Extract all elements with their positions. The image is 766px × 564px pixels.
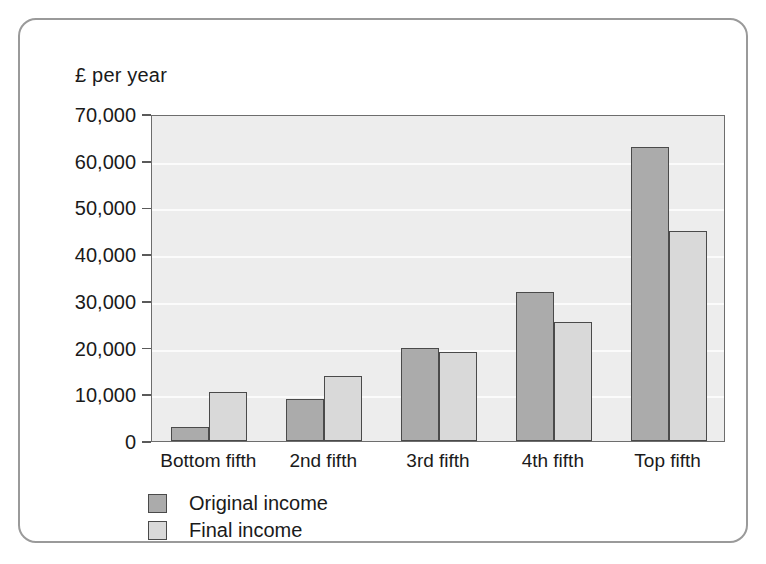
plot-area: [151, 115, 725, 442]
x-tick-label: 4th fifth: [522, 450, 584, 472]
bar: [554, 322, 592, 441]
bar: [171, 427, 209, 441]
y-tick-mark: [142, 114, 151, 116]
bar: [669, 231, 707, 441]
bars-layer: [152, 116, 724, 441]
x-tick-label: 3rd fifth: [406, 450, 469, 472]
y-tick-label: 50,000: [42, 197, 136, 220]
bar: [631, 147, 669, 441]
legend-label: Final income: [189, 519, 302, 542]
bar: [439, 352, 477, 441]
x-tick-label: 2nd fifth: [289, 450, 357, 472]
y-axis-unit-label: £ per year: [75, 64, 167, 87]
y-tick-mark: [142, 441, 151, 443]
y-tick-label: 20,000: [42, 337, 136, 360]
bar: [516, 292, 554, 441]
y-tick-label: 10,000: [42, 384, 136, 407]
y-tick-mark: [142, 301, 151, 303]
bar: [209, 392, 247, 441]
x-tick-label: Bottom fifth: [160, 450, 256, 472]
y-tick-label: 0: [42, 431, 136, 454]
legend-entry: Final income: [148, 517, 328, 544]
bar: [401, 348, 439, 441]
bar: [324, 376, 362, 441]
y-tick-label: 30,000: [42, 290, 136, 313]
y-tick-mark: [142, 254, 151, 256]
legend-label: Original income: [189, 492, 328, 515]
y-tick-label: 60,000: [42, 150, 136, 173]
y-tick-label: 70,000: [42, 104, 136, 127]
legend-swatch: [148, 494, 167, 513]
y-tick-mark: [142, 348, 151, 350]
y-tick-mark: [142, 161, 151, 163]
legend-entry: Original income: [148, 490, 328, 517]
legend-swatch: [148, 521, 167, 540]
x-tick-label: Top fifth: [634, 450, 701, 472]
figure-frame: £ per year 010,00020,00030,00040,00050,0…: [18, 18, 748, 543]
y-tick-label: 40,000: [42, 244, 136, 267]
y-tick-mark: [142, 208, 151, 210]
chart-legend: Original incomeFinal income: [148, 490, 328, 544]
y-tick-mark: [142, 394, 151, 396]
bar: [286, 399, 324, 441]
